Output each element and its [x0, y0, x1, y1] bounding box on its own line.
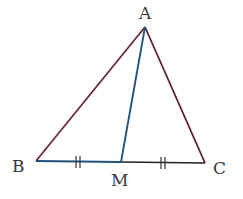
label-c: C — [213, 158, 226, 178]
label-b: B — [12, 156, 25, 176]
segment-ab — [36, 27, 145, 161]
segment-mc — [121, 162, 205, 163]
label-a: A — [138, 3, 152, 23]
median-am — [121, 27, 145, 162]
label-m: M — [111, 170, 128, 190]
triangle-diagram: A B C M — [0, 0, 243, 199]
segment-bm — [36, 161, 121, 162]
segment-ac — [145, 27, 205, 163]
